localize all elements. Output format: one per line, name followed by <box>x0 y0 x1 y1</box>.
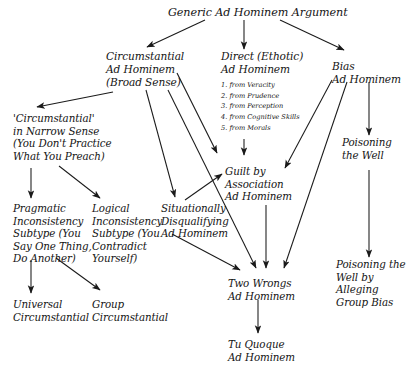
ad-hominem-taxonomy-diagram: Generic Ad Hominem Argument Circumstanti… <box>0 0 415 372</box>
node-circumstantial-narrow-sense: 'Circumstantial' in Narrow Sense (You Do… <box>13 112 112 162</box>
edge-situationally-to-guilt <box>185 174 222 200</box>
node-pragmatic-inconsistency-subtype: Pragmatic Inconsistency Subtype (You Say… <box>13 202 92 265</box>
edge-broad-to-situationally <box>146 90 175 197</box>
edge-narrow-to-logical <box>59 166 100 198</box>
direct-ethotic-subtype-list: 1. from Veracity 2. from Prudence 3. fro… <box>221 80 300 133</box>
node-guilt-by-association: Guilt by Association Ad Hominem <box>225 165 292 203</box>
node-logical-inconsistency-subtype: Logical Inconsistency Subtype (You Contr… <box>92 202 162 265</box>
node-poisoning-well-group-bias: Poisoning the Well by Alleging Group Bia… <box>336 258 415 308</box>
node-poisoning-the-well: Poisoning the Well <box>342 136 392 161</box>
node-bias-ad-hominem: Bias Ad Hominem <box>332 60 401 86</box>
node-generic-ad-hominem-argument: Generic Ad Hominem Argument <box>168 6 348 20</box>
node-situationally-disqualifying: Situationally Disqualifying Ad Hominem <box>161 202 229 240</box>
edge-generic-to-bias <box>280 20 344 50</box>
node-universal-circumstantial: Universal Circumstantial <box>13 298 89 323</box>
node-two-wrongs: Two Wrongs Ad Hominem <box>228 277 295 302</box>
node-group-circumstantial: Group Circumstantial <box>92 298 168 323</box>
node-direct-ethotic: Direct (Ethotic) Ad Hominem <box>221 50 303 76</box>
edge-broad-to-narrow <box>37 92 113 107</box>
edge-generic-to-circumstantial-broad <box>147 20 205 47</box>
node-tu-quoque: Tu Quoque Ad Hominem <box>228 338 295 363</box>
node-circumstantial-broad-sense: Circumstantial Ad Hominem (Broad Sense) <box>106 50 184 89</box>
